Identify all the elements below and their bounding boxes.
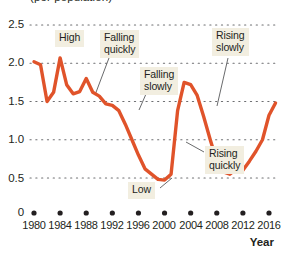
annotation-falling-slowly: Falling slowly [140, 67, 178, 95]
annotation-falling-quickly: Falling quickly [100, 30, 139, 58]
annotation-low: Low [128, 182, 155, 199]
y-tick-label-0.5: 0.5 [0, 172, 24, 184]
annotation-rising-slowly: Rising slowly [212, 28, 249, 56]
y-tick-label-1.0: 1.0 [0, 133, 24, 145]
chart-container: (per population) 2.5 2.0 1.5 1.0 0.5 0 1… [0, 0, 282, 257]
y-tick-label-0: 0 [0, 206, 24, 218]
x-tick-label-2016: 2016 [254, 219, 282, 231]
annotation-rising-quickly: Rising quickly [205, 146, 244, 174]
x-tick-label-2000: 2000 [149, 219, 179, 231]
annotation-high: High [55, 30, 84, 47]
x-axis-title: Year [250, 236, 274, 248]
y-tick-label-2.0: 2.0 [0, 56, 24, 68]
y-tick-label-1.5: 1.5 [0, 95, 24, 107]
x-axis-dot-markers [31, 210, 271, 215]
y-tick-label-2.5: 2.5 [0, 18, 24, 30]
